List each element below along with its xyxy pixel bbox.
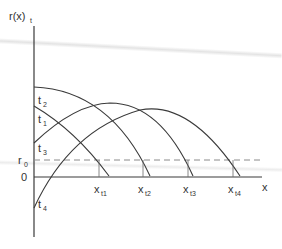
threshold-label-sub: 0: [24, 161, 28, 168]
curve-t3: [34, 103, 193, 176]
curve-t1: [34, 106, 109, 176]
curve-label-t2-sub: 2: [43, 101, 47, 108]
curve-label-t2: t: [38, 94, 41, 106]
x-mark-t2-sub: t2: [145, 190, 151, 197]
x-mark-t3: x: [183, 183, 189, 195]
curve-t2: [34, 87, 150, 176]
x-axis-label: x: [262, 181, 268, 193]
curve-label-t1-sub: 1: [43, 120, 47, 127]
x-mark-t1-sub: t1: [101, 190, 107, 197]
x-mark-t1: x: [94, 183, 100, 195]
curve-label-t3-sub: 3: [43, 149, 47, 156]
curve-label-t1: t: [38, 113, 41, 125]
curve-label-t3: t: [38, 142, 41, 154]
diagram-svg: r(x) t r 0 0 t 2 t 1 t 3 t 4 x t1 x t2 x…: [0, 0, 282, 249]
x-mark-t4-sub: t4: [235, 190, 241, 197]
y-axis-label: r(x): [9, 10, 26, 22]
curve-t4: [34, 109, 240, 208]
y-axis-label-sub: t: [30, 17, 32, 24]
curve-label-t4-sub: 4: [43, 205, 47, 212]
curve-label-t4: t: [38, 198, 41, 210]
origin-label: 0: [21, 171, 27, 183]
diagram-canvas: r(x) t r 0 0 t 2 t 1 t 3 t 4 x t1 x t2 x…: [0, 0, 282, 249]
x-mark-t3-sub: t3: [190, 190, 196, 197]
x-mark-t4: x: [228, 183, 234, 195]
x-mark-t2: x: [138, 183, 144, 195]
threshold-label: r: [18, 154, 22, 166]
